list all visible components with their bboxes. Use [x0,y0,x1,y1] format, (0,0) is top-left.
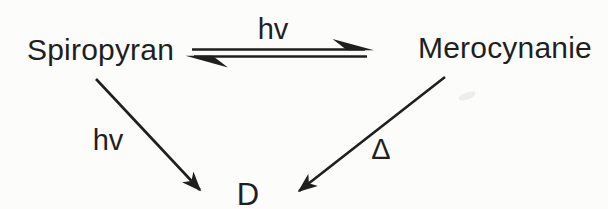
label-merocyanine: Merocynanie [418,31,592,64]
label-spiropyran: Spiropyran [27,33,174,66]
label-product-d: D [237,177,260,209]
label-delta-right-arrow: Δ [371,133,390,165]
reaction-scheme-canvas: Spiropyran Merocynanie D hv hv Δ [0,0,608,209]
label-hv-equilibrium: hv [258,13,289,45]
label-hv-left-arrow: hv [93,124,124,156]
scan-smudge [457,90,476,103]
reaction-scheme: Spiropyran Merocynanie D hv hv Δ [0,0,608,209]
